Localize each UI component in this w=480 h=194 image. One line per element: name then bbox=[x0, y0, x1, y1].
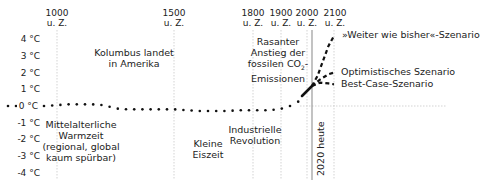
data-point bbox=[174, 108, 177, 111]
data-point bbox=[51, 104, 54, 107]
y-tick-label: -2 °C bbox=[17, 134, 40, 144]
x-tick-label: 1900u. Z. bbox=[270, 8, 293, 28]
data-point bbox=[272, 108, 275, 111]
scenario-line-weiter bbox=[312, 36, 334, 86]
annotation-mittelalterliche-warmzeit: MittelalterlicheWarmzeit(regional, globa… bbox=[42, 119, 119, 163]
data-point bbox=[92, 103, 95, 106]
data-point bbox=[76, 103, 79, 106]
data-point bbox=[281, 107, 284, 110]
legend-best-case-szenario: Best-Case-Szenario bbox=[341, 78, 433, 89]
annotation-kleine-eiszeit: KleineEiszeit bbox=[193, 138, 224, 160]
data-point bbox=[84, 103, 87, 106]
data-point bbox=[264, 109, 267, 112]
y-tick-label: 2 °C bbox=[21, 68, 40, 78]
annotation-2020-heute: 2020 heute bbox=[315, 121, 326, 176]
data-point bbox=[166, 108, 169, 111]
data-point bbox=[108, 106, 111, 109]
data-point bbox=[223, 110, 226, 113]
data-point bbox=[182, 109, 185, 112]
data-point bbox=[231, 109, 234, 112]
data-point bbox=[133, 108, 136, 111]
y-tick-label: -1 °C bbox=[17, 118, 40, 128]
annotation-kolumbus: Kolumbus landetin Amerika bbox=[94, 47, 174, 69]
annotation-industrielle-revolution: IndustrielleRevolution bbox=[228, 124, 281, 146]
y-tick-label: -3 °C bbox=[17, 151, 40, 161]
x-tick-label: 2100u. Z. bbox=[324, 8, 347, 28]
data-point bbox=[125, 108, 128, 111]
legend-optimistisches-szenario: Optimistisches Szenario bbox=[341, 66, 455, 77]
data-point bbox=[289, 105, 292, 108]
data-point bbox=[149, 108, 152, 111]
x-tick-label: 1000u. Z. bbox=[46, 8, 69, 28]
x-tick-label: 1800u. Z. bbox=[242, 8, 265, 28]
data-point bbox=[248, 109, 251, 112]
data-point bbox=[207, 110, 210, 113]
data-point bbox=[297, 100, 300, 103]
x-tick-label: 2000u. Z. bbox=[296, 8, 319, 28]
y-tick-label: 1 °C bbox=[21, 84, 40, 94]
data-point bbox=[141, 108, 144, 111]
y-tick-label: 3 °C bbox=[21, 51, 40, 61]
data-point bbox=[59, 104, 62, 107]
data-point bbox=[100, 104, 103, 107]
legend-weiter-wie-bisher: »Weiter wie bisher«-Szenario bbox=[342, 29, 480, 40]
annotation-rasanter-anstieg: Rasanter Anstieg der fossilen CO2- Emiss… bbox=[248, 36, 309, 84]
data-point bbox=[67, 103, 70, 106]
data-point bbox=[7, 105, 10, 108]
data-point bbox=[256, 109, 259, 112]
data-point bbox=[43, 105, 46, 108]
data-point bbox=[117, 107, 120, 110]
y-tick-label: -4 °C bbox=[17, 168, 40, 178]
data-point bbox=[199, 110, 202, 113]
y-tick-label: 4 °C bbox=[21, 34, 40, 44]
y-tick-label: 0 °C bbox=[17, 101, 40, 111]
data-point bbox=[240, 109, 243, 112]
data-point bbox=[158, 108, 161, 111]
data-point bbox=[215, 110, 218, 113]
data-point bbox=[190, 109, 193, 112]
x-tick-label: 1500u. Z. bbox=[163, 8, 186, 28]
scenario-line-best-case bbox=[312, 83, 334, 86]
